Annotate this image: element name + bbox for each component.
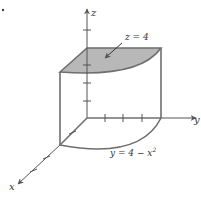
- top-face-z4: [60, 48, 161, 73]
- base-curve: [60, 118, 161, 149]
- corner-dot: [2, 9, 4, 11]
- x-axis: [18, 145, 60, 184]
- x-axis-label: x: [9, 181, 15, 192]
- base-curve-label-main: y = 4 − x: [109, 148, 152, 158]
- solid-region-diagram: z y x z = 4 y = 4 − x2: [0, 0, 201, 201]
- base-curve-label-exp: 2: [151, 146, 156, 153]
- y-axis-label: y: [193, 114, 200, 125]
- z4-label: z = 4: [124, 32, 149, 42]
- z-axis-label: z: [90, 7, 97, 18]
- base-curve-label: y = 4 − x2: [109, 146, 156, 158]
- x-axis-inner: [60, 118, 87, 145]
